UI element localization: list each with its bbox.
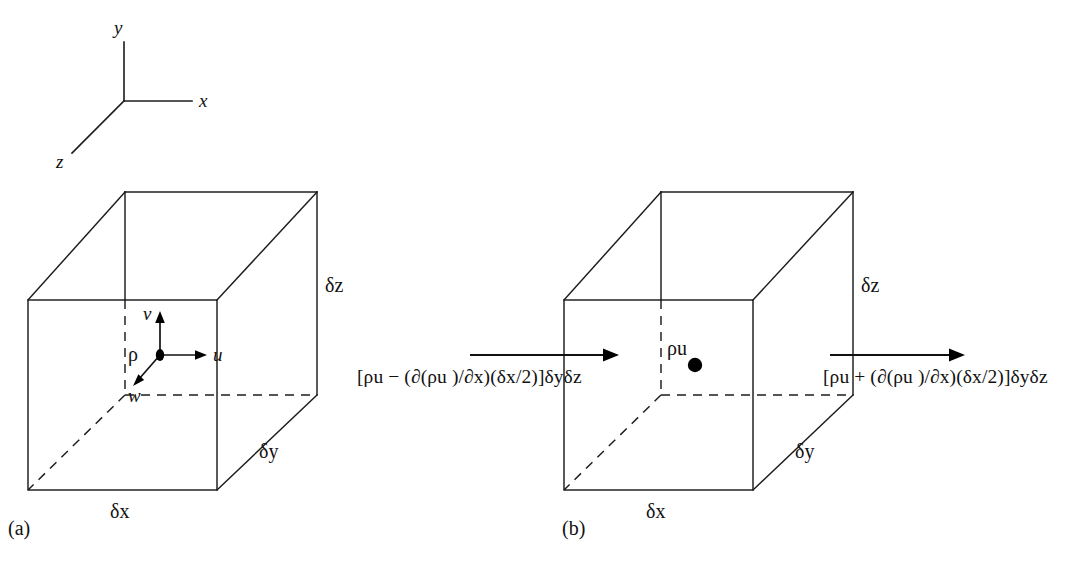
cube-a-hidden-diagonal — [28, 395, 125, 490]
fluid-element-center-dot-b — [688, 358, 702, 372]
cube-a-front-face — [28, 300, 217, 490]
density-label-rho: ρ — [128, 344, 138, 364]
coordinate-axes-group — [72, 42, 192, 153]
cube-b-front-face — [564, 300, 753, 490]
cube-a-top-left-connector — [28, 192, 125, 300]
axis-label-z: z — [56, 152, 63, 171]
velocity-label-v: v — [143, 304, 151, 323]
figure-root: y x z δz δy δx ρ v u w (a) δz δy δx ρu [… — [0, 0, 1080, 574]
velocity-label-u: u — [213, 345, 223, 364]
axis-label-y: y — [114, 18, 122, 37]
cube-b-top-left-connector — [564, 192, 661, 300]
velocity-label-w: w — [128, 386, 141, 405]
velocity-u-arrowhead — [195, 350, 207, 360]
fluid-element-center-dot-a — [156, 349, 164, 361]
axis-label-x: x — [199, 91, 207, 110]
mass-flux-center-label: ρu — [667, 338, 687, 358]
cube-a-top-right-connector — [217, 192, 317, 300]
inflow-arrowhead — [603, 349, 619, 362]
panel-caption-b: (b) — [562, 518, 585, 538]
velocity-v-arrowhead — [155, 311, 165, 323]
cube-b-label-delta-z: δz — [861, 275, 879, 295]
cube-a-label-delta-z: δz — [325, 275, 343, 295]
figure-canvas — [0, 0, 1080, 574]
cube-b-label-delta-y: δy — [795, 441, 814, 461]
panel-caption-a: (a) — [8, 518, 30, 538]
inflow-expression-label: [ρu − (∂(ρu )/∂x)(δx/2)]δyδz — [357, 367, 582, 387]
cube-b-top-right-connector — [753, 192, 853, 300]
z-axis-line — [72, 101, 124, 153]
cube-b-hidden-diagonal — [564, 395, 661, 490]
cube-a-label-delta-y: δy — [259, 441, 278, 461]
outflow-expression-label: [ρu + (∂(ρu )/∂x)(δx/2)]δyδz — [823, 367, 1048, 387]
cube-b-label-delta-x: δx — [646, 501, 665, 521]
outflow-arrowhead — [949, 349, 965, 362]
cube-a-label-delta-x: δx — [110, 501, 129, 521]
